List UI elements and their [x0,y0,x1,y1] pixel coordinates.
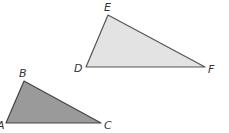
vertex-label-a: A [0,119,5,132]
vertex-label-f: F [208,63,215,76]
triangle-abc [6,81,101,123]
vertex-label-c: C [104,119,112,132]
vertex-label-b: B [19,67,27,80]
vertex-label-d: D [74,62,82,75]
vertex-label-e: E [104,1,111,14]
diagram-canvas: E D F B A C [0,0,229,133]
triangle-def [86,15,205,67]
